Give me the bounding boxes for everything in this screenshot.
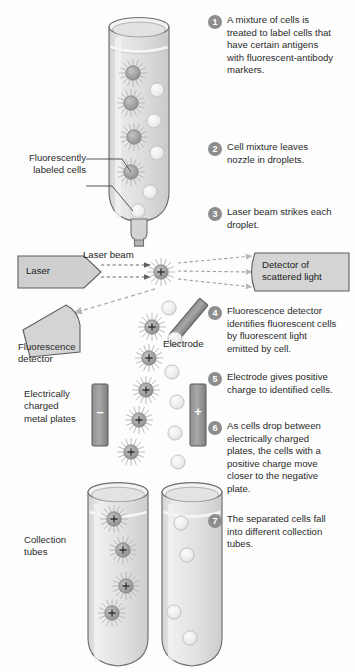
step-badge-2: 2 (208, 142, 222, 156)
label-laser-beam: Laser beam (83, 249, 134, 261)
label-laser: Laser (26, 265, 50, 277)
illuminated-droplet (147, 258, 174, 285)
step-text-2: Cell mixture leaves nozzle in droplets. (227, 141, 337, 166)
label-charged-plates-line1: Electrically (24, 388, 76, 400)
label-electrode: Electrode (163, 338, 204, 350)
label-scatter-detector-line1: Detector of (262, 259, 322, 271)
label-fluorescently-labeled-cells: Fluorescently labeled cells (4, 152, 86, 177)
step-badge-1: 1 (208, 15, 222, 29)
label-collection-tubes-line2: tubes (24, 546, 66, 558)
step-badge-5: 5 (208, 372, 222, 386)
label-electrically-charged-metal-plates: Electrically charged metal plates (24, 388, 76, 425)
negative-plate-sign: – (92, 405, 108, 418)
step-callout-4: 4 Fluorescence detector identifies fluor… (208, 305, 337, 355)
step-text-1: A mixture of cells is treated to label c… (227, 14, 337, 77)
step-callout-6: 6 As cells drop between electrically cha… (208, 420, 337, 496)
label-charged-plates-line3: metal plates (24, 413, 76, 425)
step-text-3: Laser beam strikes each droplet. (227, 206, 337, 231)
scattered-light-rays (178, 256, 252, 287)
step-callout-2: 2 Cell mixture leaves nozzle in droplets… (208, 141, 337, 166)
step-badge-7: 7 (208, 514, 222, 528)
label-fluorescently-labeled-cells-line2: labeled cells (4, 164, 86, 176)
step-text-5: Electrode gives positive charge to ident… (227, 371, 337, 396)
label-fluorescently-labeled-cells-line1: Fluorescently (4, 152, 86, 164)
step-text-4: Fluorescence detector identifies fluores… (227, 305, 337, 355)
label-detector-of-scattered-light: Detector of scattered light (262, 259, 322, 283)
step-badge-6: 6 (208, 421, 222, 435)
label-collection-tubes: Collection tubes (24, 534, 66, 559)
label-fluorescence-detector: Fluorescence detector (18, 341, 76, 366)
label-charged-plates-line2: charged (24, 400, 76, 412)
step-text-7: The separated cells fall into different … (227, 513, 337, 551)
step-callout-7: 7 The separated cells fall into differen… (208, 513, 337, 551)
droplet-stream (117, 301, 185, 469)
fluorescence-ray (74, 289, 155, 313)
label-scatter-detector-line2: scattered light (262, 271, 322, 283)
facs-diagram: 1 A mixture of cells is treated to label… (0, 0, 355, 672)
label-collection-tubes-line1: Collection (24, 534, 66, 546)
step-badge-4: 4 (208, 306, 222, 320)
step-callout-3: 3 Laser beam strikes each droplet. (208, 206, 337, 231)
step-callout-5: 5 Electrode gives positive charge to ide… (208, 371, 337, 396)
label-fluorescence-detector-line1: Fluorescence (18, 341, 76, 353)
label-fluorescence-detector-line2: detector (18, 353, 76, 365)
step-badge-3: 3 (208, 207, 222, 221)
step-callout-1: 1 A mixture of cells is treated to label… (208, 14, 337, 77)
step-text-6: As cells drop between electrically charg… (227, 420, 337, 496)
laser-beam-rays (101, 265, 150, 277)
positive-plate-sign: + (190, 405, 206, 418)
